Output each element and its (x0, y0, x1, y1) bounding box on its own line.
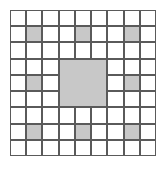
grid-cell-empty (107, 124, 123, 140)
grid-center-block (59, 59, 108, 108)
grid-cell-empty (107, 91, 123, 107)
grid-cell-empty (59, 140, 75, 156)
grid-cell-empty (42, 75, 58, 91)
grid-cell-empty (10, 124, 26, 140)
grid-cell-empty (140, 124, 156, 140)
grid-cell-empty (140, 91, 156, 107)
grid-cell-empty (91, 107, 107, 123)
grid-cell-empty (59, 107, 75, 123)
grid-cell-empty (10, 26, 26, 42)
grid-cell-empty (42, 91, 58, 107)
grid-cell-empty (10, 75, 26, 91)
grid-cell-empty (75, 107, 91, 123)
grid-cell-empty (26, 107, 42, 123)
grid-cell-empty (91, 124, 107, 140)
grid-cell-shaded (75, 26, 91, 42)
grid-cell-empty (140, 42, 156, 58)
grid-cell-empty (140, 75, 156, 91)
grid-cell-empty (107, 140, 123, 156)
grid-cell-empty (26, 42, 42, 58)
grid-cell-shaded (124, 26, 140, 42)
grid-cell-empty (124, 91, 140, 107)
grid-cell-empty (107, 59, 123, 75)
grid-cell-empty (91, 140, 107, 156)
grid-cell-empty (10, 10, 26, 26)
grid-cell-empty (124, 107, 140, 123)
grid-cell-empty (42, 26, 58, 42)
grid-cell-empty (75, 42, 91, 58)
grid-cell-empty (140, 140, 156, 156)
grid-cell-empty (107, 26, 123, 42)
grid-cell-empty (10, 107, 26, 123)
grid-cell-empty (42, 10, 58, 26)
grid-cell-empty (42, 59, 58, 75)
grid-cell-empty (59, 10, 75, 26)
grid-cell-shaded (26, 75, 42, 91)
grid-cell-empty (42, 42, 58, 58)
grid-container (10, 10, 156, 156)
grid-cell-empty (140, 10, 156, 26)
grid-cell-empty (26, 59, 42, 75)
grid-cell-empty (91, 26, 107, 42)
grid-cell-empty (42, 140, 58, 156)
grid-cell-empty (91, 42, 107, 58)
grid-cell-shaded (124, 75, 140, 91)
grid-cell-shaded (75, 124, 91, 140)
grid-cell-empty (59, 124, 75, 140)
grid-cell-empty (10, 91, 26, 107)
grid-cell-empty (107, 42, 123, 58)
grid-cell-empty (107, 10, 123, 26)
grid-cell-empty (124, 10, 140, 26)
grid-cell-empty (26, 140, 42, 156)
grid-cell-empty (75, 140, 91, 156)
grid-cell-empty (124, 59, 140, 75)
grid-cell-empty (124, 140, 140, 156)
grid-cell-shaded (26, 124, 42, 140)
grid-cell-empty (10, 42, 26, 58)
grid-cell-empty (124, 42, 140, 58)
grid-cell-empty (140, 107, 156, 123)
grid-cell-empty (107, 75, 123, 91)
grid-cell-empty (59, 26, 75, 42)
grid-cell-empty (10, 140, 26, 156)
grid-pattern-figure (0, 0, 167, 171)
grid-cell-empty (75, 10, 91, 26)
grid-cell-empty (59, 42, 75, 58)
grid-cell-empty (140, 59, 156, 75)
grid-cell-empty (42, 124, 58, 140)
grid-cell-empty (26, 10, 42, 26)
grid-cell-empty (107, 107, 123, 123)
grid-cell-empty (26, 91, 42, 107)
grid-cell-shaded (26, 26, 42, 42)
grid-cell-empty (91, 10, 107, 26)
grid-cell-empty (42, 107, 58, 123)
grid-cell-shaded (124, 124, 140, 140)
grid-cell-empty (140, 26, 156, 42)
grid-cell-empty (10, 59, 26, 75)
